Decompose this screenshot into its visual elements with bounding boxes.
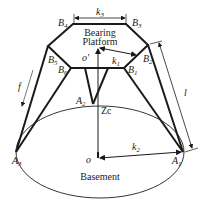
- basement-ellipse: [16, 106, 184, 198]
- leg-b6side-a2: [85, 68, 93, 104]
- legs: [16, 45, 183, 152]
- basement-label: Basement: [80, 171, 120, 182]
- label-a1: A1: [171, 155, 182, 168]
- label-k2: k2: [132, 141, 140, 154]
- k2-arrow: [100, 152, 181, 158]
- label-zc: Zc: [101, 105, 112, 116]
- label-o: o: [86, 154, 91, 165]
- leg-b2-a1: [148, 45, 183, 152]
- label-k1: k1: [112, 55, 120, 68]
- leg-b6-a3: [16, 68, 71, 152]
- label-a2: A2: [75, 95, 86, 108]
- label-f: f: [18, 81, 22, 92]
- label-o-prime: o′: [82, 52, 90, 63]
- leg-b1side-a2: [93, 68, 108, 104]
- platform-label-line2: Platform: [83, 36, 118, 47]
- leg-b5-a3: [16, 46, 48, 152]
- label-b3: B3: [132, 17, 142, 30]
- k1-arrow: [100, 48, 136, 55]
- label-l: l: [184, 87, 187, 98]
- label-b5: B5: [48, 54, 58, 67]
- l-ext-bottom: [185, 148, 198, 152]
- label-b4: B4: [58, 17, 68, 30]
- label-k3: k3: [96, 6, 104, 19]
- mechanism-diagram: Bearing Platform Basement B4 B3 B5 B6 B2…: [0, 0, 210, 202]
- l-ext-top: [150, 41, 162, 44]
- label-a3: A3: [11, 155, 22, 168]
- label-b6: B6: [58, 64, 68, 77]
